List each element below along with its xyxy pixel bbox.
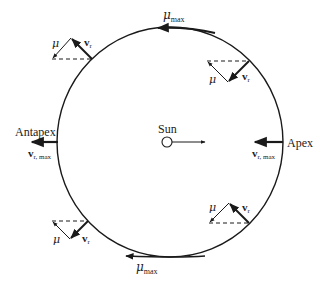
antapex-vr-label: vr, max <box>28 147 52 161</box>
top-left-vr-label: vr <box>84 36 93 50</box>
top-mu-max-label: μmax <box>163 8 185 24</box>
top-right-vr-label: vr <box>242 70 251 84</box>
antapex-group: Antapex vr, max <box>15 125 58 161</box>
antapex-label: Antapex <box>15 125 56 139</box>
top-left-mu-label: μ <box>52 37 59 50</box>
top-right-triangle: μ vr <box>207 61 251 86</box>
bottom-right-mu-label: μ <box>209 201 216 214</box>
bottom-left-vr-label: vr <box>82 232 91 246</box>
bottom-mu-max-label: μmax <box>136 260 158 276</box>
top-mu-max: μmax <box>158 8 215 33</box>
bottom-left-mu-label: μ <box>53 233 60 246</box>
apex-label: Apex <box>287 136 313 150</box>
top-left-triangle: μ vr <box>52 36 93 59</box>
sun-icon <box>162 137 172 147</box>
bottom-right-triangle: μ vr <box>209 201 251 223</box>
bottom-mu-max: μmax <box>126 256 205 276</box>
apex-vr-label: vr, max <box>252 147 276 161</box>
bottom-right-vr-label: vr <box>242 201 251 215</box>
sun-group: Sun <box>158 122 205 147</box>
solar-apex-diagram: Sun μmax μmax Antapex vr, max Apex vr, m… <box>0 0 328 284</box>
top-right-mu-label: μ <box>209 73 216 86</box>
bottom-left-triangle: μ vr <box>52 221 91 246</box>
sun-label: Sun <box>158 122 177 136</box>
